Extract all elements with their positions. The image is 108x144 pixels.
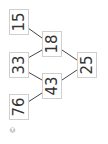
copyright-icon: © bbox=[9, 127, 17, 134]
cell-middle-1: 18 bbox=[42, 31, 62, 57]
cell-middle-2: 43 bbox=[42, 73, 62, 99]
cell-top: 25 bbox=[77, 52, 97, 78]
cell-value: 33 bbox=[10, 55, 28, 74]
cell-value: 18 bbox=[43, 34, 61, 53]
cell-value: 43 bbox=[43, 76, 61, 95]
cell-base-1: 15 bbox=[9, 9, 29, 35]
cell-base-3: 76 bbox=[9, 94, 29, 120]
cell-value: 15 bbox=[10, 12, 28, 31]
cell-value: 76 bbox=[10, 97, 28, 116]
cell-base-2: 33 bbox=[9, 52, 29, 78]
cell-value: 25 bbox=[78, 55, 96, 74]
